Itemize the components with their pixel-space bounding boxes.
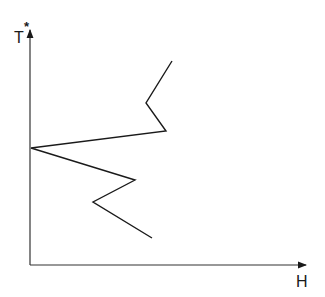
y-axis-label: T xyxy=(14,30,24,46)
x-axis-label: H xyxy=(296,274,308,290)
zigzag-curve xyxy=(31,61,172,238)
diagram-canvas xyxy=(0,0,325,297)
y-axis-superscript: * xyxy=(24,19,29,34)
